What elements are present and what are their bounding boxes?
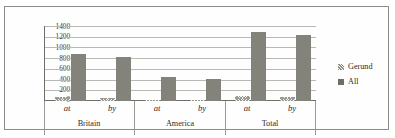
x-axis-label-band: at by at by at by Britain America Total (44, 101, 316, 135)
bar-all-america-by (206, 79, 221, 102)
group-label-total: Total (210, 119, 330, 128)
legend-item-gerund: Gerund (338, 59, 394, 74)
legend-label-gerund: Gerund (348, 62, 373, 71)
bar-all-britain-by (116, 57, 131, 101)
x-label-total-by: by (262, 103, 322, 113)
chart-legend: Gerund All (338, 59, 394, 89)
bar-slot-britain-by (100, 26, 134, 101)
bar-all-britain-at (71, 54, 86, 101)
bar-all-total-at (251, 32, 266, 101)
bar-slot-total-at (235, 26, 269, 101)
legend-item-all: All (338, 74, 394, 89)
bar-slot-america-by (190, 26, 224, 101)
legend-swatch-all-icon (338, 79, 344, 85)
bar-slot-total-by (280, 26, 314, 101)
bar-all-america-at (161, 77, 176, 101)
bar-slot-britain-at (55, 26, 89, 101)
bar-all-total-by (296, 35, 311, 101)
bar-slot-america-at (145, 26, 179, 101)
chart-frame: 1400 1200 1000 800 600 400 200 0 (4, 6, 389, 130)
legend-label-all: All (348, 77, 358, 86)
plot-area (44, 26, 316, 101)
legend-swatch-gerund-icon (338, 64, 344, 70)
